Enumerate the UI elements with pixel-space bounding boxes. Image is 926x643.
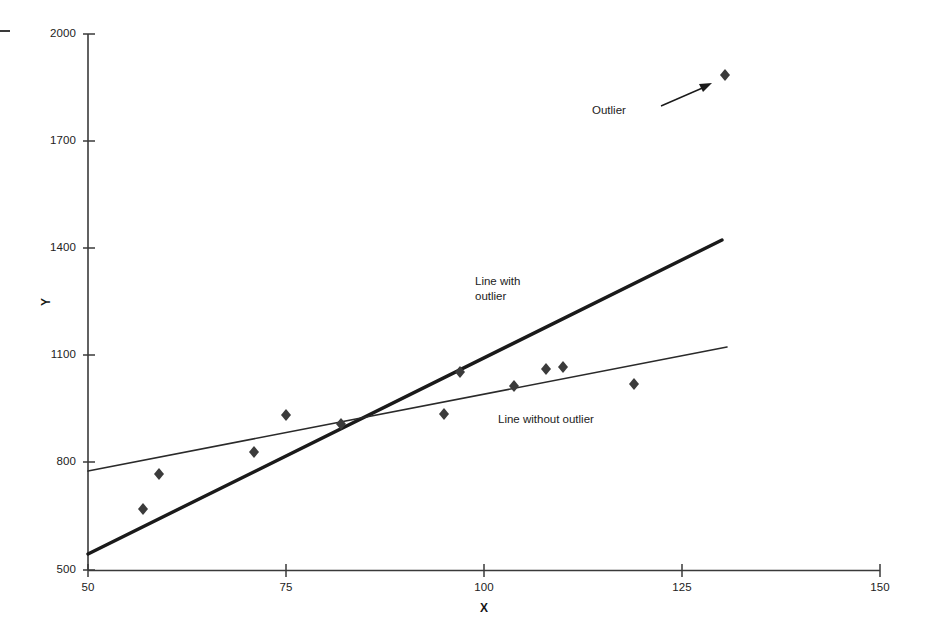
line-with-outlier-label-line1: Line with bbox=[475, 274, 520, 289]
y-tick-label-1400: 1400 bbox=[18, 241, 76, 253]
data-point bbox=[439, 408, 449, 420]
data-point bbox=[281, 409, 291, 421]
x-tick-label-125: 125 bbox=[662, 581, 702, 593]
y-axis-ticks bbox=[83, 34, 95, 570]
outlier-arrow bbox=[661, 83, 712, 106]
y-tick-label-800: 800 bbox=[18, 455, 76, 467]
data-point bbox=[629, 378, 639, 390]
data-point bbox=[154, 468, 164, 480]
x-axis-title: X bbox=[464, 601, 504, 615]
line-with-outlier-label: Line with outlier bbox=[475, 274, 520, 303]
y-tick-label-1700: 1700 bbox=[18, 134, 76, 146]
y-tick-label-1100: 1100 bbox=[18, 348, 76, 360]
x-tick-label-50: 50 bbox=[68, 581, 108, 593]
y-axis-title: Y bbox=[39, 295, 53, 309]
x-tick-label-75: 75 bbox=[266, 581, 306, 593]
data-point bbox=[558, 361, 568, 373]
y-tick-label-500: 500 bbox=[18, 563, 76, 575]
x-tick-label-150: 150 bbox=[860, 581, 900, 593]
x-tick-label-100: 100 bbox=[464, 581, 504, 593]
line-with-outlier bbox=[88, 240, 722, 554]
outlier-annotation-label: Outlier bbox=[592, 103, 626, 118]
data-point-markers bbox=[138, 69, 730, 515]
scatter-plot bbox=[0, 0, 926, 643]
line-without-outlier-label: Line without outlier bbox=[498, 412, 594, 427]
chart-canvas: 2000 1700 1400 1100 800 500 50 75 100 12… bbox=[0, 0, 926, 643]
data-point bbox=[249, 446, 259, 458]
data-point bbox=[138, 503, 148, 515]
data-point bbox=[509, 380, 519, 392]
data-point bbox=[541, 363, 551, 375]
y-tick-label-2000: 2000 bbox=[18, 27, 76, 39]
line-with-outlier-label-line2: outlier bbox=[475, 289, 520, 304]
line-without-outlier bbox=[88, 347, 727, 471]
outlier-data-point bbox=[720, 69, 730, 81]
